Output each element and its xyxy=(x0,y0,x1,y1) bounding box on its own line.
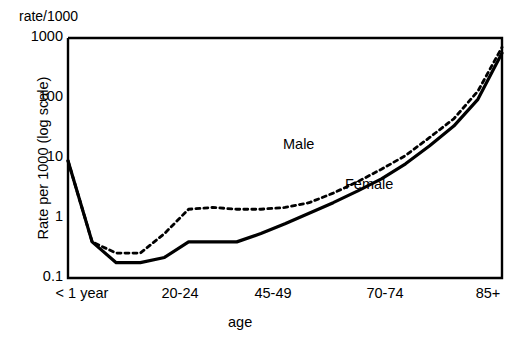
x-tick-label: 70-74 xyxy=(366,285,403,301)
chart-figure: rate/1000 Rate per 1000 (log scale) 1000… xyxy=(0,0,517,345)
x-tick-label: 20-24 xyxy=(161,285,198,301)
x-tick-label: 45-49 xyxy=(254,285,291,301)
x-tick-label: < 1 year xyxy=(56,285,109,301)
x-tick-labels: < 1 year20-2445-4970-7485+ xyxy=(0,0,517,345)
x-tick-label: 85+ xyxy=(476,285,501,301)
x-axis-title: age xyxy=(228,314,252,330)
